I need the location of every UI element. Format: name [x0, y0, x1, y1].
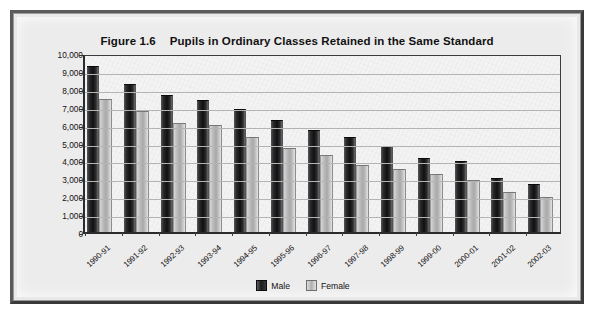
bar-male — [271, 120, 283, 232]
bar-group — [195, 56, 232, 232]
gridline — [85, 128, 560, 129]
bar-female — [173, 123, 186, 232]
bar-group — [342, 56, 379, 232]
x-tick-label: 1996-97 — [306, 243, 333, 269]
y-tick-label: 3,000 — [41, 175, 83, 185]
x-tick-mark — [489, 232, 490, 236]
bar-group — [526, 56, 563, 232]
x-tick-label: 1995-96 — [269, 243, 296, 269]
bars-layer — [85, 56, 560, 232]
x-tick-mark — [453, 232, 454, 236]
legend-item[interactable]: Male — [256, 280, 290, 291]
x-tick-label: 1999-00 — [416, 243, 443, 269]
chart-legend: MaleFemale — [39, 280, 567, 291]
y-tick-label: 10,000 — [41, 50, 83, 60]
figure-number: Figure 1.6 — [100, 35, 155, 47]
bar-female — [540, 197, 553, 232]
chart-container: 10,0009,0008,0007,0006,0005,0004,0003,00… — [39, 51, 567, 299]
y-tick-label: 7,000 — [41, 104, 83, 114]
y-tick-label: 0 — [41, 229, 83, 239]
gridline — [85, 110, 560, 111]
bar-group — [306, 56, 343, 232]
x-axis-labels: 1990-911991-921992-931993-941994-951995-… — [83, 238, 561, 286]
gridline — [85, 163, 560, 164]
bar-female — [430, 174, 443, 232]
bar-male — [418, 158, 430, 232]
x-tick-mark — [85, 232, 86, 236]
bar-male — [491, 178, 503, 232]
legend-item-label: Male — [271, 281, 290, 291]
gridline — [85, 199, 560, 200]
x-tick-label: 1998-99 — [379, 243, 406, 269]
bar-group — [379, 56, 416, 232]
gridline — [85, 217, 560, 218]
light-gray-swatch-icon — [306, 280, 317, 291]
y-axis: 10,0009,0008,0007,0006,0005,0004,0003,00… — [39, 55, 83, 234]
bar-group — [232, 56, 269, 232]
x-tick-label: 2000-01 — [453, 243, 480, 269]
bar-group — [489, 56, 526, 232]
gridline — [85, 92, 560, 93]
bar-group — [416, 56, 453, 232]
y-tick-label: 4,000 — [41, 157, 83, 167]
figure-page: Figure 1.6Pupils in Ordinary Classes Ret… — [0, 0, 594, 314]
x-tick-mark — [232, 232, 233, 236]
bar-male — [124, 84, 136, 232]
legend-item[interactable]: Female — [306, 280, 350, 291]
x-tick-label: 1993-94 — [195, 243, 222, 269]
bar-male — [528, 184, 540, 232]
x-tick-mark — [195, 232, 196, 236]
x-tick-label: 2002-03 — [526, 243, 553, 269]
bar-male — [197, 100, 209, 232]
y-tick-label: 6,000 — [41, 122, 83, 132]
gridline — [85, 181, 560, 182]
y-tick-label: 9,000 — [41, 68, 83, 78]
plot-area — [83, 55, 561, 234]
bar-female — [136, 111, 149, 232]
x-tick-label: 1990-91 — [85, 243, 112, 269]
bar-group — [122, 56, 159, 232]
bar-female — [393, 169, 406, 232]
bar-group — [453, 56, 490, 232]
bar-male — [455, 161, 467, 232]
bar-female — [467, 180, 480, 232]
x-tick-label: 1997-98 — [342, 243, 369, 269]
figure-title-text: Pupils in Ordinary Classes Retained in t… — [170, 35, 494, 47]
bar-male — [381, 146, 393, 232]
bar-female — [320, 155, 333, 232]
legend-item-label: Female — [321, 281, 350, 291]
bar-group — [159, 56, 196, 232]
bar-female — [503, 192, 516, 232]
x-tick-mark — [526, 232, 527, 236]
x-tick-mark — [342, 232, 343, 236]
page-inner-surface: Figure 1.6Pupils in Ordinary Classes Ret… — [17, 17, 577, 297]
gridline — [85, 74, 560, 75]
x-tick-mark — [379, 232, 380, 236]
y-tick-label: 5,000 — [41, 140, 83, 150]
y-tick-label: 2,000 — [41, 193, 83, 203]
x-tick-label: 1994-95 — [232, 243, 259, 269]
bar-female — [99, 99, 112, 232]
x-tick-mark — [269, 232, 270, 236]
dark-gray-swatch-icon — [256, 280, 267, 291]
page-title: Figure 1.6Pupils in Ordinary Classes Ret… — [17, 35, 577, 47]
bar-female — [283, 148, 296, 232]
x-tick-mark — [159, 232, 160, 236]
y-tick-label: 1,000 — [41, 211, 83, 221]
gridline — [85, 146, 560, 147]
x-tick-mark — [416, 232, 417, 236]
bar-female — [209, 125, 222, 233]
x-tick-mark — [122, 232, 123, 236]
y-tick-mark — [79, 234, 83, 235]
x-tick-label: 1992-93 — [158, 243, 185, 269]
x-tick-label: 2001-02 — [489, 243, 516, 269]
x-tick-label: 1991-92 — [122, 243, 149, 269]
y-tick-label: 8,000 — [41, 86, 83, 96]
x-tick-mark — [306, 232, 307, 236]
bar-group — [269, 56, 306, 232]
bar-group — [85, 56, 122, 232]
page-frame: Figure 1.6Pupils in Ordinary Classes Ret… — [10, 10, 584, 304]
